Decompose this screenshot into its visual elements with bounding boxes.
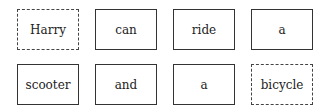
word-card-bicycle[interactable]: bicycle	[251, 64, 313, 105]
word-card-a-2[interactable]: a	[173, 64, 235, 105]
word-label: scooter	[26, 78, 71, 92]
word-label: bicycle	[261, 78, 304, 92]
word-card-scooter[interactable]: scooter	[17, 64, 79, 105]
word-label: ride	[192, 23, 216, 37]
word-label: a	[278, 23, 285, 37]
word-label: a	[200, 78, 207, 92]
word-card-ride[interactable]: ride	[173, 9, 235, 50]
word-card-harry[interactable]: Harry	[17, 9, 79, 50]
word-card-can[interactable]: can	[95, 9, 157, 50]
word-label: and	[115, 78, 138, 92]
word-label: can	[115, 23, 137, 37]
word-card-grid: Harry can ride a scooter and a bicycle	[0, 0, 331, 110]
word-card-a[interactable]: a	[251, 9, 313, 50]
word-label: Harry	[30, 23, 66, 37]
word-card-and[interactable]: and	[95, 64, 157, 105]
